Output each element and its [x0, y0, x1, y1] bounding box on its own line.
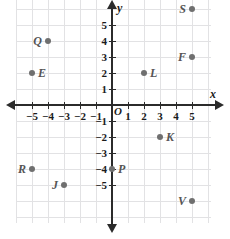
coordinate-plane: −5−4−3−2−11234554321−1−2−3−4−5 x y O SQF… — [0, 0, 230, 239]
x-axis-label: x — [210, 88, 216, 100]
grid-line-vertical — [208, 0, 209, 223]
y-axis-tick-label: 5 — [102, 20, 108, 31]
y-axis-tick — [109, 25, 116, 26]
point-label-v: V — [178, 195, 186, 207]
x-axis-tick — [48, 102, 49, 109]
y-axis-tick-label: −3 — [95, 148, 107, 159]
x-axis-tick — [176, 102, 177, 109]
y-axis-down-arrow — [107, 224, 117, 233]
y-axis-tick — [109, 57, 116, 58]
origin-label: O — [114, 106, 122, 117]
y-axis-tick — [109, 137, 116, 138]
y-axis-tick-label: 3 — [102, 52, 108, 63]
point-label-e: E — [38, 67, 46, 79]
y-axis-tick-label: 2 — [102, 68, 108, 79]
y-axis-tick-label: 4 — [102, 36, 108, 47]
x-axis-tick — [32, 102, 33, 109]
grid-line-vertical — [16, 0, 17, 223]
x-axis-tick — [64, 102, 65, 109]
x-axis-tick-label: −4 — [42, 111, 54, 122]
x-axis-tick — [128, 102, 129, 109]
y-axis-tick-label: 1 — [102, 84, 108, 95]
point-label-q: Q — [33, 35, 42, 47]
point-label-s: S — [179, 3, 186, 15]
point-label-j: J — [52, 179, 58, 191]
x-axis-right-arrow — [215, 100, 224, 110]
y-axis-tick — [109, 121, 116, 122]
point-label-r: R — [18, 163, 26, 175]
x-axis-tick-label: −3 — [58, 111, 70, 122]
point-label-f: F — [178, 51, 186, 63]
x-axis-tick — [192, 102, 193, 109]
y-axis-tick-label: −5 — [95, 180, 107, 191]
x-axis-left-arrow — [6, 100, 15, 110]
y-axis-tick — [109, 41, 116, 42]
point-label-l: L — [150, 67, 157, 79]
x-axis-tick-label: 3 — [157, 111, 163, 122]
x-axis-tick-label: 1 — [125, 111, 131, 122]
plotted-point-p — [109, 166, 115, 172]
x-axis-tick-label: 4 — [173, 111, 179, 122]
x-axis-tick — [80, 102, 81, 109]
plotted-point-f — [189, 54, 195, 60]
plotted-point-q — [45, 38, 51, 44]
plotted-point-e — [29, 70, 35, 76]
y-axis-tick — [109, 185, 116, 186]
x-axis-tick — [144, 102, 145, 109]
y-axis-up-arrow — [107, 0, 117, 9]
y-axis-tick — [109, 73, 116, 74]
plotted-point-k — [157, 134, 163, 140]
y-axis-tick-label: −1 — [95, 116, 107, 127]
y-axis-tick-label: −2 — [95, 132, 107, 143]
point-label-p: P — [118, 163, 125, 175]
plotted-point-s — [189, 6, 195, 12]
x-axis-tick — [96, 102, 97, 109]
y-axis-tick — [109, 89, 116, 90]
x-axis-tick-label: −5 — [26, 111, 38, 122]
y-axis-tick-label: −4 — [95, 164, 107, 175]
y-axis-label: y — [117, 2, 122, 14]
x-axis-tick-label: 5 — [189, 111, 195, 122]
x-axis-tick-label: −2 — [74, 111, 86, 122]
plotted-point-j — [61, 182, 67, 188]
x-axis-tick-label: 2 — [141, 111, 147, 122]
point-label-k: K — [166, 131, 174, 143]
plotted-point-r — [29, 166, 35, 172]
grid-line-horizontal — [16, 217, 211, 218]
y-axis-tick — [109, 153, 116, 154]
plotted-point-v — [189, 198, 195, 204]
plotted-point-l — [141, 70, 147, 76]
x-axis-tick — [160, 102, 161, 109]
